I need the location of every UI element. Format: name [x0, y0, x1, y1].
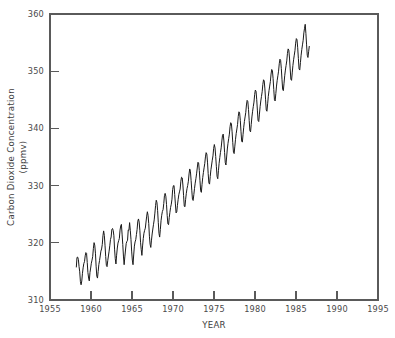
y-tick-label: 330 [28, 181, 44, 191]
co2-chart-figure: 310320330340350360 195519601965197019751… [0, 0, 395, 338]
plot-frame [50, 14, 378, 300]
x-tick-label: 1995 [367, 304, 389, 314]
x-tick-label: 1980 [244, 304, 266, 314]
x-tick-label: 1975 [203, 304, 225, 314]
co2-data-line [76, 24, 309, 284]
y-axis-title-line1: Carbon Dioxide Concentration [6, 88, 16, 226]
y-axis-title: Carbon Dioxide Concentration (ppmv) [6, 88, 28, 226]
y-tick-label: 340 [28, 123, 44, 133]
x-axis-title: YEAR [201, 320, 226, 330]
y-tick-label: 350 [28, 66, 44, 76]
y-axis-title-line2: (ppmv) [18, 141, 28, 174]
x-tick-label: 1970 [162, 304, 184, 314]
y-tick-label: 360 [28, 9, 44, 19]
x-tick-label: 1990 [326, 304, 348, 314]
x-tick-label: 1965 [121, 304, 143, 314]
axis-rect [50, 14, 378, 300]
x-tick-label: 1955 [39, 304, 61, 314]
y-tick-label: 320 [28, 238, 44, 248]
x-tick-label: 1985 [285, 304, 307, 314]
y-axis: 310320330340350360 [28, 9, 59, 305]
x-tick-label: 1960 [80, 304, 102, 314]
x-axis: 195519601965197019751980198519901995 [39, 291, 389, 314]
chart-canvas: 310320330340350360 195519601965197019751… [0, 0, 395, 338]
